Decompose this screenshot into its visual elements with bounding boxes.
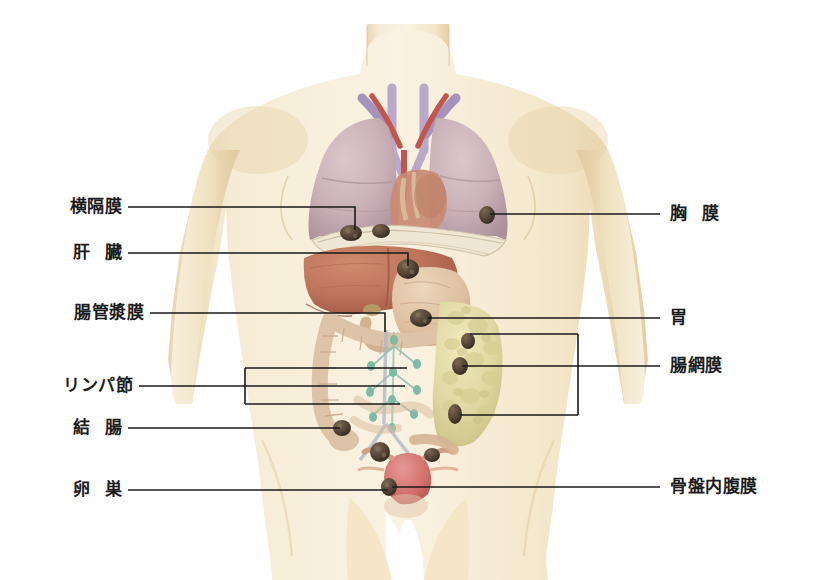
label-lymph-node: リンパ節 bbox=[0, 377, 133, 394]
label-liver: 肝臓 bbox=[0, 244, 122, 261]
label-colon-text-b: 腸 bbox=[105, 417, 123, 437]
leader-liver bbox=[128, 253, 408, 266]
label-diaphragm-text: 横隔膜 bbox=[70, 196, 123, 216]
label-lymph-node-text: リンパ節 bbox=[63, 375, 133, 395]
label-pelvic-peritoneum: 骨盤内腹膜 bbox=[670, 478, 758, 495]
label-colon-text-a: 結 bbox=[73, 417, 91, 437]
label-stomach: 胃 bbox=[670, 309, 688, 326]
label-stomach-text: 胃 bbox=[670, 307, 688, 327]
label-pleura-text-b: 膜 bbox=[702, 203, 720, 223]
label-ovary: 卵巣 bbox=[0, 481, 122, 498]
label-liver-text-a: 肝 bbox=[73, 242, 91, 262]
label-ovary-text-b: 巣 bbox=[105, 479, 123, 499]
label-pleura: 胸膜 bbox=[670, 205, 719, 222]
label-ovary-text-a: 卵 bbox=[73, 479, 91, 499]
label-pelvic-text: 骨盤内腹膜 bbox=[670, 476, 758, 496]
leader-serosa bbox=[150, 313, 385, 332]
label-intestinal-serosa: 腸管漿膜 bbox=[0, 304, 144, 321]
label-serosa-text: 腸管漿膜 bbox=[74, 302, 144, 322]
label-liver-text-b: 臓 bbox=[105, 242, 123, 262]
leader-diaphragm bbox=[128, 207, 355, 230]
diagram-canvas: 横隔膜 肝臓 腸管漿膜 リンパ節 結腸 卵巣 胸膜 胃 腸網膜 骨盤内腹膜 bbox=[0, 0, 819, 580]
label-colon: 結腸 bbox=[0, 419, 122, 436]
label-pleura-text-a: 胸 bbox=[670, 203, 688, 223]
label-intestinal-omentum: 腸網膜 bbox=[670, 357, 723, 374]
label-diaphragm: 横隔膜 bbox=[0, 198, 122, 215]
label-omentum-text: 腸網膜 bbox=[670, 355, 723, 375]
